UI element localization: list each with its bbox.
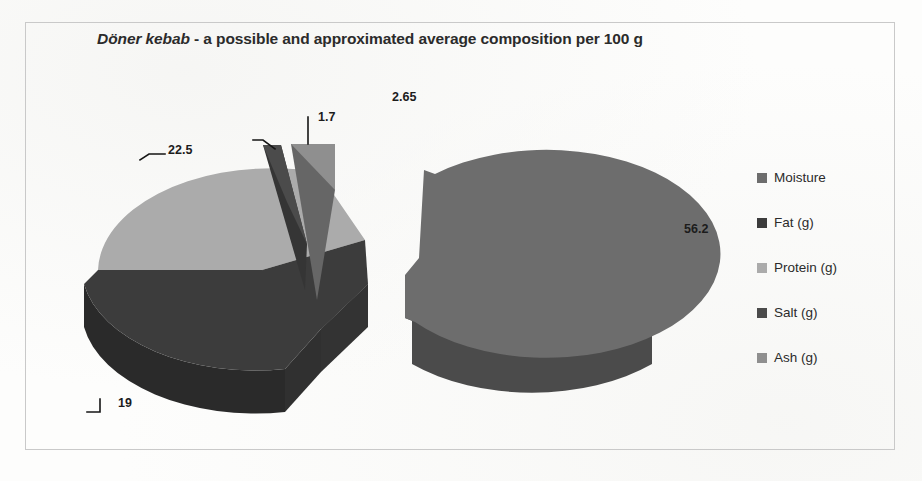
data-label-protein: 22.5 [168, 143, 192, 157]
data-label-salt: 1.7 [318, 110, 335, 124]
legend-label-protein: Protein (g) [774, 260, 837, 275]
legend-item-moisture[interactable]: Moisture [757, 155, 887, 200]
legend-label-salt: Salt (g) [774, 305, 818, 320]
legend-item-ash[interactable]: Ash (g) [757, 335, 887, 380]
legend-swatch-moisture [757, 173, 767, 183]
legend-label-fat: Fat (g) [774, 215, 814, 230]
pie-slice-moisture[interactable] [405, 150, 720, 393]
legend-swatch-fat [757, 218, 767, 228]
pie-slice-moisture-top [405, 150, 720, 358]
legend-item-fat[interactable]: Fat (g) [757, 200, 887, 245]
legend-item-salt[interactable]: Salt (g) [757, 290, 887, 335]
screenshot-root: Döner kebab - a possible and approximate… [0, 0, 922, 481]
legend-label-moisture: Moisture [774, 170, 826, 185]
data-label-ash: 2.65 [392, 90, 416, 104]
legend-swatch-salt [757, 308, 767, 318]
leader-line-fat [87, 399, 100, 412]
chart-legend: Moisture Fat (g) Protein (g) Salt (g) As… [757, 155, 887, 380]
legend-swatch-ash [757, 353, 767, 363]
legend-swatch-protein [757, 263, 767, 273]
pie-plot-area [25, 22, 765, 450]
legend-label-ash: Ash (g) [774, 350, 818, 365]
pie-chart-svg [25, 22, 765, 450]
leader-line-protein [140, 154, 165, 160]
legend-item-protein[interactable]: Protein (g) [757, 245, 887, 290]
data-label-fat: 19 [118, 396, 132, 410]
data-label-moisture: 56.2 [684, 222, 708, 236]
